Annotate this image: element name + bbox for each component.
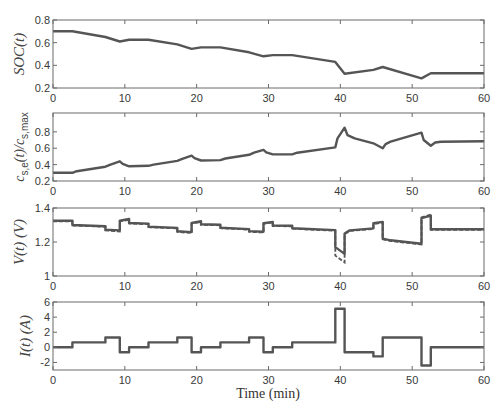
x-tick-label: 10: [119, 374, 131, 386]
x-tick-label: 50: [406, 374, 418, 386]
x-tick-label: 0: [50, 92, 56, 104]
x-tick-label: 30: [262, 92, 274, 104]
x-tick-label: 40: [334, 92, 346, 104]
concentration-ylabel: cs,e(t)/cs,max: [12, 112, 30, 182]
x-tick-label: 30: [262, 374, 274, 386]
y-tick-label: 0.8: [35, 126, 50, 138]
current-ylabel: I(t) (A): [17, 315, 34, 358]
soc-ylabel: SOC(t): [11, 33, 28, 76]
y-tick-label: 1.4: [35, 202, 50, 214]
axes-box: [53, 208, 484, 276]
x-tick-label: 20: [191, 280, 203, 292]
x-tick-label: 30: [262, 185, 274, 197]
x-tick-label: 20: [191, 92, 203, 104]
voltage-ylabel: V(t) (V): [11, 219, 28, 265]
y-tick-label: 0: [44, 341, 50, 353]
x-tick-label: 20: [191, 374, 203, 386]
concentration-axes: 01020304050600.20.40.60.8: [35, 113, 490, 197]
y-tick-label: 2: [44, 326, 50, 338]
y-tick-label: 4: [44, 311, 50, 323]
y-tick-label: 1.2: [35, 236, 50, 248]
x-tick-label: 40: [334, 185, 346, 197]
y-tick-label: -2: [40, 356, 50, 368]
x-tick-label: 60: [478, 92, 490, 104]
x-tick-label: 60: [478, 185, 490, 197]
x-tick-label: 0: [50, 374, 56, 386]
y-tick-label: 0.2: [35, 175, 50, 187]
x-tick-label: 0: [50, 185, 56, 197]
series-line: [53, 31, 484, 78]
figure: 01020304050600.20.40.60.8 01020304050600…: [0, 0, 504, 413]
x-tick-label: 10: [119, 280, 131, 292]
y-tick-label: 0.4: [35, 159, 50, 171]
x-tick-label: 10: [119, 185, 131, 197]
y-tick-label: 0.6: [35, 37, 50, 49]
x-tick-label: 10: [119, 92, 131, 104]
voltage-axes: 010203040506011.21.4: [35, 202, 490, 292]
y-tick-label: 0.8: [35, 14, 50, 26]
x-tick-label: 20: [191, 185, 203, 197]
series-line: [53, 128, 484, 173]
cse-sub1: s,e: [19, 162, 30, 176]
x-tick-label: 40: [334, 280, 346, 292]
x-tick-label: 40: [334, 374, 346, 386]
x-tick-label: 60: [478, 374, 490, 386]
y-tick-label: 0.4: [35, 59, 50, 71]
y-tick-label: 0.6: [35, 142, 50, 154]
cse-mid: (t)/c: [12, 138, 28, 162]
x-tick-label: 0: [50, 280, 56, 292]
x-tick-label: 50: [406, 92, 418, 104]
x-tick-label: 50: [406, 280, 418, 292]
series-line: [53, 216, 484, 254]
axes-box: [53, 302, 484, 370]
time-xlabel: Time (min): [236, 386, 300, 402]
x-tick-label: 30: [262, 280, 274, 292]
y-tick-label: 0.2: [35, 82, 50, 94]
current-axes: 0102030405060-20246: [40, 296, 490, 386]
x-tick-label: 60: [478, 280, 490, 292]
cse-sub2: s,max: [19, 112, 30, 139]
series-line: [53, 309, 484, 366]
y-tick-label: 1: [44, 270, 50, 282]
axes-box: [53, 113, 484, 181]
soc-axes: 01020304050600.20.40.60.8: [35, 14, 490, 104]
x-tick-label: 50: [406, 185, 418, 197]
y-tick-label: 6: [44, 296, 50, 308]
